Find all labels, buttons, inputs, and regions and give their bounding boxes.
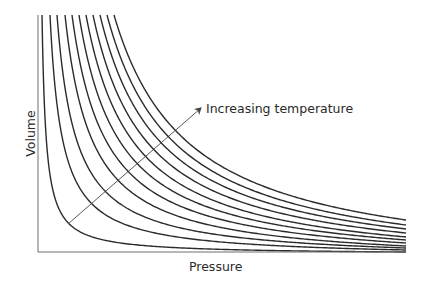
- isotherm-curves: [42, 15, 406, 252]
- isotherm-6-curve: [79, 15, 406, 240]
- isotherm-2-curve: [50, 15, 406, 250]
- isotherm-9-curve: [100, 15, 406, 229]
- pressure-volume-chart: [0, 0, 428, 287]
- isotherm-8-curve: [93, 15, 406, 233]
- isotherm-10-curve: [107, 15, 406, 225]
- y-axis-label: Volume: [23, 106, 38, 162]
- x-axis-label: Pressure: [189, 259, 242, 274]
- isotherm-11-curve: [114, 15, 406, 220]
- annotation-label: Increasing temperature: [206, 101, 353, 116]
